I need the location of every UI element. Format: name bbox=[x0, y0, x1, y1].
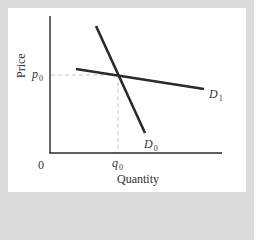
d1-label-sub: 1 bbox=[219, 94, 223, 103]
d0-label-main: D bbox=[144, 137, 153, 151]
q0-label-sub: 0 bbox=[119, 163, 123, 172]
demand-curve-d1 bbox=[76, 69, 204, 89]
d0-label: D0 bbox=[144, 138, 158, 153]
p0-label-sub: 0 bbox=[39, 74, 43, 83]
y-axis-label: Price bbox=[14, 53, 29, 78]
d0-label-sub: 0 bbox=[154, 144, 158, 153]
q0-label: q0 bbox=[112, 157, 123, 172]
p0-label-main: p bbox=[32, 67, 38, 81]
q0-label-main: q bbox=[112, 156, 118, 170]
d1-label-main: D bbox=[209, 87, 218, 101]
p0-label: p0 bbox=[32, 68, 43, 83]
origin-label: 0 bbox=[38, 159, 44, 171]
x-axis-label: Quantity bbox=[117, 173, 159, 185]
d1-label: D1 bbox=[209, 88, 223, 103]
